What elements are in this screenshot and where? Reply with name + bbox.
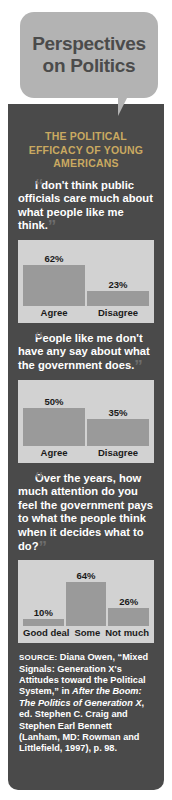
bar: [87, 419, 149, 446]
bar-value-label: 62%: [44, 253, 63, 264]
quote-block-1: “I don't think public officials care muc…: [18, 179, 154, 234]
axis-label: Good deal: [23, 627, 69, 639]
bar: [23, 265, 85, 306]
bar-chart-1: 62% 23% Agree Disagree: [18, 240, 154, 323]
quote-open-icon: “: [18, 179, 43, 192]
axis-label: Agree: [23, 447, 85, 459]
bar-column: 23%: [87, 244, 149, 306]
bar-column: 50%: [23, 384, 85, 446]
quote-open-icon: “: [18, 332, 43, 345]
bar-value-label: 35%: [108, 407, 127, 418]
plot-area-3: 10% 64% 26%: [23, 564, 149, 626]
page-title-line-2: on Politics: [43, 55, 136, 77]
bar-column: 62%: [23, 244, 85, 306]
quote-close-icon: ”: [39, 538, 47, 557]
axis-label: Some: [71, 627, 103, 639]
panel-inner: The Political Efficacy of Young American…: [8, 104, 164, 755]
axis-label: Not much: [105, 627, 149, 639]
bar-value-label: 64%: [77, 570, 96, 581]
axis-label: Disagree: [87, 307, 149, 319]
content-panel: The Political Efficacy of Young American…: [8, 104, 164, 790]
quote-block-3: “Over the years, how much attention do y…: [18, 472, 154, 555]
bar: [87, 291, 149, 306]
bar: [23, 619, 64, 626]
quote-block-2: “People like me don't have any say about…: [18, 332, 154, 374]
bar: [23, 408, 85, 446]
bar-chart-3: 10% 64% 26% Good deal Some Not muc: [18, 560, 154, 643]
bar-column: 35%: [87, 384, 149, 446]
axis-label: Agree: [23, 307, 85, 319]
infographic-root: Perspectives on Politics The Political E…: [0, 0, 172, 800]
quote-close-icon: ”: [48, 217, 56, 236]
bar-value-label: 23%: [108, 279, 127, 290]
page-title-line-1: Perspectives: [32, 33, 146, 55]
bar-value-label: 50%: [44, 396, 63, 407]
axis-labels-1: Agree Disagree: [23, 306, 149, 323]
quote-close-icon: ”: [134, 357, 142, 376]
subtitle: The Political Efficacy of Young American…: [19, 130, 153, 171]
plot-area-2: 50% 35%: [23, 384, 149, 446]
bar-column: 26%: [108, 564, 149, 626]
axis-labels-3: Good deal Some Not much: [23, 626, 149, 643]
bar-column: 64%: [66, 564, 107, 626]
plot-area-1: 62% 23%: [23, 244, 149, 306]
bar-value-label: 26%: [119, 596, 138, 607]
quote-open-icon: “: [18, 472, 43, 485]
bar: [66, 582, 107, 626]
bar-value-label: 10%: [34, 607, 53, 618]
title-speech-bubble: Perspectives on Politics: [20, 12, 158, 98]
axis-label: Disagree: [87, 447, 149, 459]
axis-labels-2: Agree Disagree: [23, 446, 149, 463]
bar: [108, 608, 149, 626]
bar-chart-2: 50% 35% Agree Disagree: [18, 380, 154, 463]
bar-column: 10%: [23, 564, 64, 626]
source-citation: SOURCE: Diana Owen, “Mixed Signals: Gene…: [19, 652, 153, 755]
speech-bubble-tail: [118, 90, 131, 116]
source-label: SOURCE:: [19, 653, 57, 662]
